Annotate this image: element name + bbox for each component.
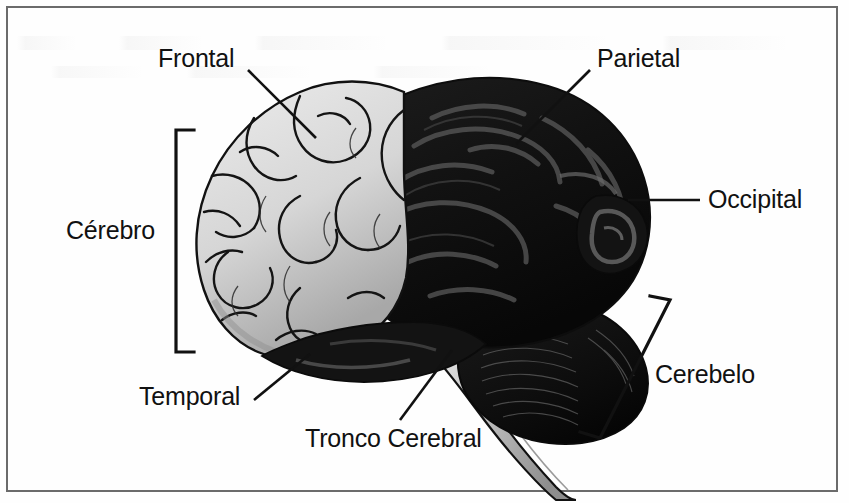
label-frontal: Frontal	[158, 44, 234, 73]
bracket-cerebro	[176, 130, 194, 352]
label-occipital: Occipital	[708, 185, 802, 214]
label-temporal: Temporal	[139, 382, 240, 411]
label-tronco-cerebral: Tronco Cerebral	[305, 424, 482, 453]
label-cerebelo: Cerebelo	[655, 360, 755, 389]
label-cerebro: Cérebro	[66, 216, 155, 245]
occipital-pole	[577, 195, 648, 273]
label-parietal: Parietal	[597, 44, 680, 73]
brain-anatomy-figure: Frontal Parietal Occipital Temporal Tron…	[0, 0, 849, 503]
